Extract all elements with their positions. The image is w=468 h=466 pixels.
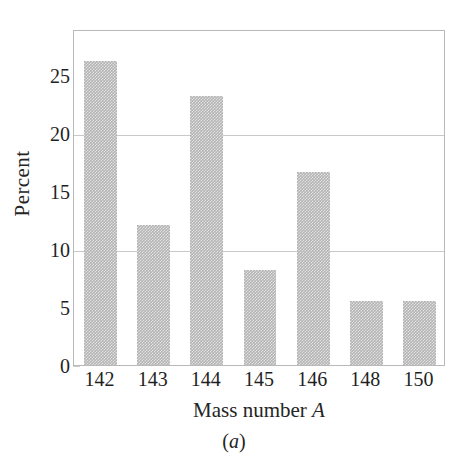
caption-suffix: )	[239, 430, 246, 452]
bar	[403, 301, 436, 365]
caption-letter: a	[229, 430, 239, 452]
plot-area	[73, 30, 445, 366]
bar	[244, 270, 277, 365]
y-axis-title-text: Percent	[11, 150, 36, 216]
y-tick-label: 5	[60, 298, 70, 318]
x-tick-label: 142	[85, 368, 115, 390]
bar	[84, 61, 117, 365]
y-tick-label: 0	[60, 356, 70, 376]
x-axis-title-text: Mass number	[193, 398, 312, 422]
x-tick-label: 144	[191, 368, 221, 390]
x-axis-ticks: 142143144145146148150	[73, 368, 445, 398]
caption-prefix: (	[222, 430, 229, 452]
y-tick-label: 10	[50, 240, 70, 260]
y-tick-label: 15	[50, 182, 70, 202]
y-tick-label: 20	[50, 124, 70, 144]
bar-series	[74, 31, 444, 365]
x-tick-label: 146	[297, 368, 327, 390]
x-tick-label: 150	[403, 368, 433, 390]
figure-panel-a: Percent 0510152025 142143144145146148150…	[0, 0, 468, 466]
bar	[350, 301, 383, 365]
x-axis-title-symbol: A	[312, 398, 325, 422]
y-axis-title: Percent	[0, 0, 46, 366]
x-tick-label: 148	[350, 368, 380, 390]
bar	[297, 172, 330, 365]
x-tick-label: 143	[138, 368, 168, 390]
y-tick-label: 25	[50, 66, 70, 86]
bar	[137, 225, 170, 365]
x-tick-label: 145	[244, 368, 274, 390]
bar	[190, 96, 223, 365]
figure-caption: (a)	[0, 430, 468, 453]
y-axis-ticks: 0510152025	[40, 0, 70, 466]
x-axis-title: Mass number A	[73, 398, 445, 423]
